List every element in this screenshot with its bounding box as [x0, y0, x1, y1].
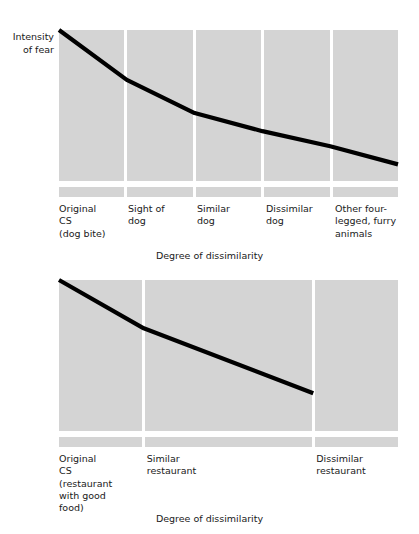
x-tick-fear-4: Other four- legged, furry animals [335, 203, 404, 240]
axis-strip-fear [59, 187, 398, 197]
figure-stimulus-generalization: Intensity of fear Original CS (dog bite)… [0, 0, 419, 534]
band-fear-2 [127, 30, 192, 181]
strip-seg-fear-1 [59, 187, 124, 197]
x-axis-title-fear: Degree of dissimilarity [0, 250, 419, 262]
strip-seg-fear-4 [264, 187, 329, 197]
strip-seg-taste-1 [59, 437, 142, 447]
strip-seg-taste-2 [145, 437, 312, 447]
y-axis-label-intensity-of-fear: Intensity of fear [2, 31, 54, 56]
x-axis-title-taste: Degree of dissimilarity [0, 513, 419, 525]
band-group-fear [59, 30, 398, 181]
strip-seg-fear-2 [127, 187, 192, 197]
x-axis-ticks-fear: Original CS (dog bite) Sight of dog Simi… [59, 203, 404, 240]
x-axis-ticks-taste: Original CS (restaurant with good food) … [59, 453, 404, 514]
strip-seg-fear-5 [333, 187, 398, 197]
x-tick-fear-1: Sight of dog [128, 203, 197, 240]
plot-area-fear [59, 30, 398, 181]
x-tick-fear-0: Original CS (dog bite) [59, 203, 128, 240]
axis-strip-taste [59, 437, 398, 447]
x-tick-fear-3: Dissimilar dog [266, 203, 335, 240]
band-fear-5 [333, 30, 398, 181]
strip-seg-taste-3 [315, 437, 398, 447]
x-tick-taste-2: Dissimilar restaurant [316, 453, 404, 514]
chart-fear-gradient: Intensity of fear Original CS (dog bite)… [0, 0, 419, 268]
band-fear-4 [264, 30, 329, 181]
band-taste-1 [59, 280, 142, 431]
plot-area-taste [59, 280, 398, 431]
band-fear-3 [196, 30, 261, 181]
strip-seg-fear-3 [196, 187, 261, 197]
x-tick-taste-0: Original CS (restaurant with good food) [59, 453, 147, 514]
x-tick-fear-2: Similar dog [197, 203, 266, 240]
x-tick-taste-1: Similar restaurant [147, 453, 317, 514]
band-taste-2 [145, 280, 312, 431]
band-fear-1 [59, 30, 124, 181]
band-taste-3 [315, 280, 398, 431]
chart-taste-aversion-gradient: Original CS (restaurant with good food) … [0, 270, 419, 534]
band-group-taste [59, 280, 398, 431]
